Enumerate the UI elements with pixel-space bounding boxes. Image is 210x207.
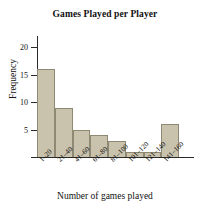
x-axis-title: Number of games played [0,191,210,201]
plot-area [37,36,179,157]
bar [37,69,55,157]
histogram-chart: Games Played per Player 5101520 Frequenc… [0,0,210,207]
x-axis-tick-labels: 1–2021–4041–6061–8081–100101–120121–1401… [37,158,187,188]
bar-series [37,36,179,157]
chart-title: Games Played per Player [0,9,210,19]
y-axis-tick-label: 5 [0,125,28,134]
y-axis-title: Frequency [8,34,18,124]
